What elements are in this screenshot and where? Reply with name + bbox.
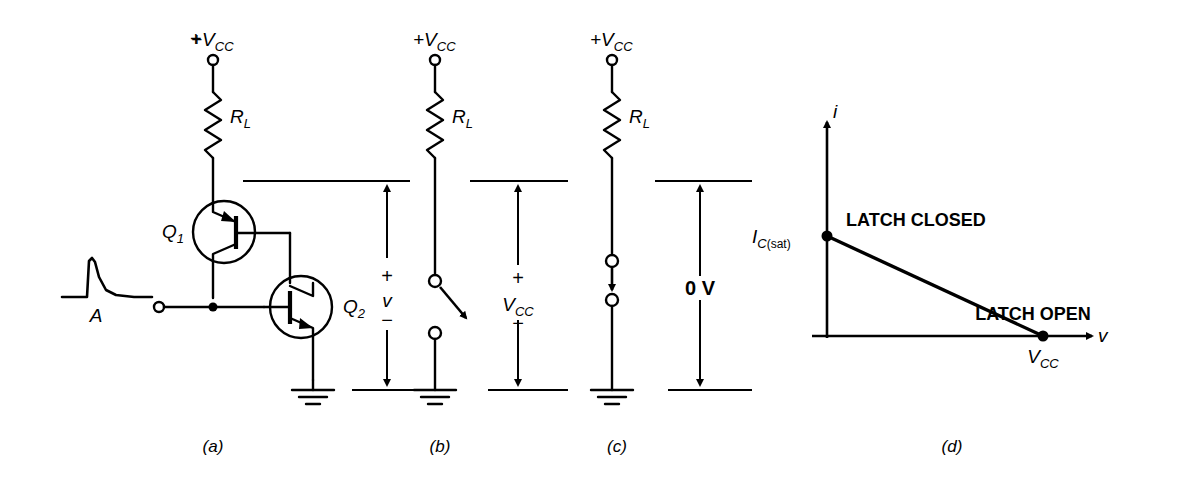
panel-c-caption: (c) — [607, 437, 627, 456]
panel-b-caption: (b) — [430, 437, 451, 456]
panel-a-supply-text: +VCC — [191, 29, 234, 54]
chart-y-axis-label: i — [833, 101, 838, 122]
panel-a-transistor-q1-label: Q1 — [162, 221, 184, 246]
panel-b: +VCC RL + VCC − (b) — [413, 29, 568, 456]
panel-b-voltage-bracket: + VCC − — [470, 181, 568, 390]
panel-c: +VCC RL 0 V (c) — [590, 29, 752, 456]
panel-a-transistor-q1 — [193, 201, 290, 298]
panel-d-caption: (d) — [942, 437, 963, 456]
chart-point-latch-closed — [822, 231, 833, 242]
panel-a-bracket-minus: − — [381, 309, 393, 331]
panel-c-resistor-RL — [604, 92, 620, 158]
panel-c-supply-text: +VCC — [590, 29, 633, 54]
panel-c-ground-symbol — [591, 390, 633, 404]
input-pulse-waveform — [62, 258, 152, 297]
panel-c-supply-terminal[interactable] — [607, 55, 617, 65]
chart-x-axis-label: v — [1098, 325, 1109, 346]
panel-a-node-dot — [209, 303, 218, 312]
panel-b-supply-terminal[interactable] — [430, 55, 440, 65]
panel-c-bracket-value: 0 V — [685, 277, 716, 299]
panel-b-bracket-minus: − — [512, 312, 524, 334]
panel-b-resistor-RL — [427, 92, 443, 158]
chart-x-axis-tick-label: VCC — [1027, 346, 1059, 371]
panel-a-transistor-q2 — [264, 276, 332, 380]
panel-a-ground-symbol — [292, 390, 334, 404]
chart-label-latch-open: LATCH OPEN — [975, 304, 1091, 324]
panel-a-resistor-label: RL — [230, 106, 251, 131]
panel-a-supply-terminal[interactable] — [208, 55, 218, 65]
panel-a-caption: (a) — [203, 437, 224, 456]
panel-c-voltage-bracket: 0 V — [655, 181, 752, 390]
panel-c-resistor-label: RL — [629, 106, 650, 131]
panel-a-bracket-plus: + — [381, 265, 393, 287]
chart-y-axis-tick-label: IC(sat) — [752, 226, 791, 251]
panel-a-bracket-value: v — [382, 290, 393, 311]
panel-c-switch-closed[interactable] — [606, 255, 618, 306]
panel-a-resistor-RL — [205, 92, 221, 158]
panel-b-ground-symbol — [414, 390, 456, 404]
figure-canvas: A ++V +VCC RL Q1 — [0, 0, 1178, 482]
input-pulse-label: A — [89, 305, 103, 326]
chart-point-latch-open — [1038, 331, 1049, 342]
panel-a-transistor-q2-label: Q2 — [343, 296, 366, 321]
panel-a-voltage-bracket: + v − — [243, 181, 422, 390]
panel-b-supply-text: +VCC — [413, 29, 456, 54]
panel-a: ++V +VCC RL Q1 — [154, 28, 422, 456]
panel-b-switch-open[interactable] — [429, 275, 466, 339]
panel-b-resistor-label: RL — [452, 106, 473, 131]
panel-b-bracket-plus: + — [512, 267, 524, 289]
chart-label-latch-closed: LATCH CLOSED — [846, 210, 986, 230]
panel-d-chart: i v LATCH CLOSED IC(sat) LATCH OPEN VCC … — [752, 101, 1109, 456]
panel-a-supply-label: ++V +VCC — [190, 28, 234, 54]
panel-a-input-terminal[interactable] — [154, 302, 164, 312]
